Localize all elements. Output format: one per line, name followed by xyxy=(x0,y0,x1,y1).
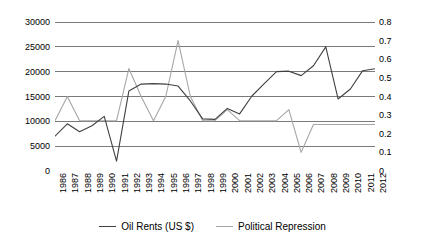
x-axis-tick: 2003 xyxy=(268,173,277,193)
series-lines xyxy=(55,41,375,161)
x-axis-tick: 2010 xyxy=(354,173,363,193)
x-axis-tick: 2009 xyxy=(342,173,351,193)
x-axis-tick: 2008 xyxy=(330,173,339,193)
y-axis-right-tick: 0.4 xyxy=(379,92,392,101)
x-axis-tick: 1992 xyxy=(133,173,142,193)
x-axis-tick: 2002 xyxy=(256,173,265,193)
y-axis-left-tick: 25000 xyxy=(25,42,50,51)
x-axis-tick: 1991 xyxy=(121,173,130,193)
chart-legend: Oil Rents (US $)Political Repression xyxy=(0,216,425,236)
y-axis-left-tick: 10000 xyxy=(25,117,50,126)
legend-label: Oil Rents (US $) xyxy=(121,221,194,232)
legend-item[interactable]: Political Repression xyxy=(216,221,326,232)
legend-label: Political Repression xyxy=(238,221,326,232)
x-axis-tick: 2004 xyxy=(281,173,290,193)
legend-line-icon xyxy=(216,226,233,227)
x-axis-tick: 2011 xyxy=(367,173,376,192)
x-axis-tick: 1999 xyxy=(219,173,228,193)
y-axis-left-tick: 15000 xyxy=(25,92,50,101)
y-axis-left: 050001000015000200002500030000 xyxy=(0,0,50,239)
x-axis-tick: 1997 xyxy=(194,173,203,193)
x-axis-tick: 1986 xyxy=(59,173,68,193)
y-axis-left-tick: 5000 xyxy=(30,142,50,151)
y-axis-left-tick: 20000 xyxy=(25,67,50,76)
x-axis-tick: 1993 xyxy=(145,173,154,193)
x-axis-tick: 2006 xyxy=(305,173,314,193)
x-axis-tick: 2012 xyxy=(379,173,388,193)
x-axis-tick: 1989 xyxy=(96,173,105,193)
y-axis-right-tick: 0.3 xyxy=(379,111,392,120)
series-line-1 xyxy=(55,47,375,161)
x-axis-tick: 1994 xyxy=(157,173,166,193)
x-axis-tick: 2001 xyxy=(244,173,253,193)
y-axis-right-tick: 0.5 xyxy=(379,73,392,82)
x-axis-tick: 2007 xyxy=(317,173,326,193)
y-axis-right-tick: 0.7 xyxy=(379,36,392,45)
y-axis-left-tick: 30000 xyxy=(25,18,50,27)
legend-line-icon xyxy=(99,226,116,227)
x-axis-tick: 1998 xyxy=(207,173,216,193)
plot-area xyxy=(55,22,375,171)
x-axis-tick: 1987 xyxy=(71,173,80,193)
y-axis-left-tick: 0 xyxy=(45,167,50,176)
x-axis: 1986198719881989199019911992199319941995… xyxy=(55,173,375,219)
x-axis-tick: 1995 xyxy=(170,173,179,193)
y-axis-right-tick: 0.6 xyxy=(379,55,392,64)
x-axis-tick: 1996 xyxy=(182,173,191,193)
legend-item[interactable]: Oil Rents (US $) xyxy=(99,221,194,232)
plot-svg xyxy=(55,22,375,171)
gridlines xyxy=(55,22,375,171)
y-axis-right-tick: 0.8 xyxy=(379,18,392,27)
x-axis-tick: 2005 xyxy=(293,173,302,193)
y-axis-right-tick: 0.2 xyxy=(379,129,392,138)
y-axis-right-tick: 0.1 xyxy=(379,148,392,157)
x-axis-tick: 1988 xyxy=(84,173,93,193)
chart-container: 050001000015000200002500030000 00.10.20.… xyxy=(0,0,425,239)
y-axis-right: 00.10.20.30.40.50.60.70.8 xyxy=(379,0,425,239)
x-axis-tick: 2000 xyxy=(231,173,240,193)
x-axis-tick: 1990 xyxy=(108,173,117,193)
